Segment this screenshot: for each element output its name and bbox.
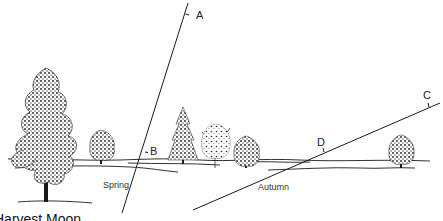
autumn-label: Autumn: [258, 182, 289, 192]
pine-tree-large: [12, 68, 77, 202]
point-d-label: D: [317, 136, 325, 148]
spring-path: [122, 3, 189, 213]
round-tree-3: [389, 135, 414, 168]
diagram-caption: Harvest Moon: [0, 211, 81, 221]
bare-tree: [202, 124, 231, 168]
round-tree-1: [90, 130, 115, 164]
harvest-moon-diagram: [0, 0, 443, 221]
point-a-label: A: [196, 9, 203, 21]
point-c-label: C: [423, 89, 431, 101]
spring-label: Spring: [103, 180, 129, 190]
round-tree-2: [234, 136, 259, 168]
conifer-tree: [168, 107, 198, 164]
point-b-label: B: [150, 145, 157, 157]
